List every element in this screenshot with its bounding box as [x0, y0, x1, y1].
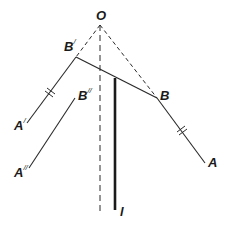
geometry-figure — [0, 0, 225, 228]
segment-b-prime-a-prime — [27, 57, 76, 123]
label-l: l — [120, 205, 124, 218]
label-b-prime: B/ — [64, 40, 76, 53]
label-a: A — [208, 156, 217, 169]
segment-b-double-prime-a-double-prime — [29, 98, 75, 168]
label-b: B — [160, 89, 169, 102]
dashed-line-o-b — [100, 25, 157, 98]
label-o: O — [96, 9, 106, 22]
label-a-prime: A/ — [14, 119, 26, 132]
dashed-line-o-b-prime — [76, 25, 100, 57]
diagram-canvas: O B/ B B// A/ A// A l — [0, 0, 225, 228]
label-b-double-prime: B// — [78, 89, 92, 102]
segment-b-a — [157, 98, 205, 163]
label-a-double-prime: A// — [14, 166, 28, 179]
